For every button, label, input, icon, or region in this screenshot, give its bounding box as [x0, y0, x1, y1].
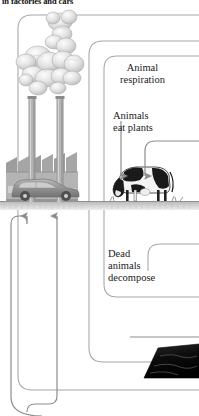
ground-line [0, 201, 199, 210]
label-dead-animals-decompose: Dead animals decompose [108, 248, 155, 283]
coal-deposit [144, 344, 199, 378]
carbon-cycle-diagram: in factories and cars Animal respiration… [0, 0, 199, 416]
diagram-canvas [0, 0, 199, 416]
label-animal-respiration: Animal respiration [120, 62, 165, 86]
label-animals-eat-plants: Animals eat plants [113, 110, 153, 134]
flow-path-decompose-box [148, 244, 199, 271]
caption-top: in factories and cars [2, 0, 73, 7]
factory-emissions-arrow-right [27, 216, 57, 412]
smoke-cloud [16, 10, 84, 95]
factory-emissions-arrow-left [11, 216, 42, 416]
